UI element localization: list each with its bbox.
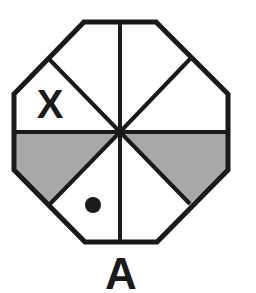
- x-mark: X: [37, 82, 64, 126]
- shaded-sector-left-lower: [14, 132, 120, 204]
- dot-mark: [85, 197, 101, 213]
- shaded-sector-right-lower: [120, 132, 228, 204]
- divider-diag-upper-right: [120, 59, 190, 132]
- figure-label: A: [0, 252, 242, 293]
- sector-dividers: [14, 22, 228, 242]
